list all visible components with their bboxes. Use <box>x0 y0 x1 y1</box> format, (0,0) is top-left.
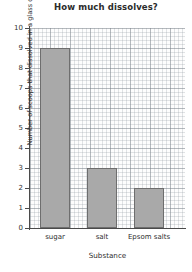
y-tick-label-0: 0 <box>0 224 23 232</box>
x-axis-title: Substance <box>30 251 185 260</box>
y-tick-label-5: 5 <box>0 124 23 132</box>
y-tick-0 <box>25 228 30 229</box>
x-tick-label-sugar: sugar <box>45 233 65 241</box>
y-tick-label-6: 6 <box>0 104 23 112</box>
y-tick-label-4: 4 <box>0 144 23 152</box>
x-tick-label-epsom-salts: Epsom salts <box>128 233 170 241</box>
y-tick-label-9: 9 <box>0 44 23 52</box>
y-tick-label-1: 1 <box>0 204 23 212</box>
y-tick-label-7: 7 <box>0 84 23 92</box>
y-tick-2 <box>25 188 30 189</box>
x-tick-label-salt: salt <box>96 233 109 241</box>
x-axis-line <box>29 228 186 229</box>
chart-title: How much dissolves? <box>26 2 186 12</box>
y-tick-1 <box>25 208 30 209</box>
plot-area <box>30 28 185 228</box>
bar-epsom-salts <box>134 188 164 228</box>
y-tick-label-10: 10 <box>0 24 23 32</box>
y-tick-label-8: 8 <box>0 64 23 72</box>
y-tick-label-3: 3 <box>0 164 23 172</box>
bar-salt <box>87 168 117 228</box>
y-tick-3 <box>25 168 30 169</box>
chart-page: How much dissolves? 0 1 2 3 4 5 6 7 8 9 … <box>0 0 192 272</box>
bar-sugar <box>40 48 70 228</box>
y-axis-title: Number of scoops that dissolved in a gla… <box>26 0 34 150</box>
y-tick-label-2: 2 <box>0 184 23 192</box>
